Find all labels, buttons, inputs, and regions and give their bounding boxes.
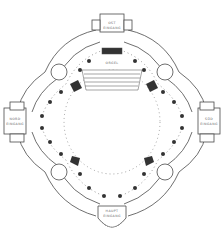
organ-gallery: [82, 48, 142, 90]
label-main-2: EINGANG: [103, 214, 121, 218]
chapel-se: [157, 164, 173, 180]
chapel-sw: [51, 164, 67, 180]
label-north-2: EINGANG: [6, 122, 24, 126]
chapel-nw: [51, 64, 67, 80]
entrance-north: [4, 108, 26, 134]
floor-plan: OST EINGANG ORGEL NORD EINGANG SÜD EINGA…: [0, 0, 224, 244]
chapel-ne: [157, 64, 173, 80]
label-south-1: SÜD: [205, 117, 213, 121]
label-east-1: OST: [108, 21, 116, 25]
outer-wall: [18, 30, 206, 216]
label-organ: ORGEL: [106, 61, 119, 65]
label-south-2: EINGANG: [200, 122, 218, 126]
label-main-1: HAUPT: [106, 209, 119, 213]
label-east-2: EINGANG: [103, 26, 121, 30]
entrance-south: [198, 108, 220, 134]
label-north-1: NORD: [9, 117, 20, 121]
